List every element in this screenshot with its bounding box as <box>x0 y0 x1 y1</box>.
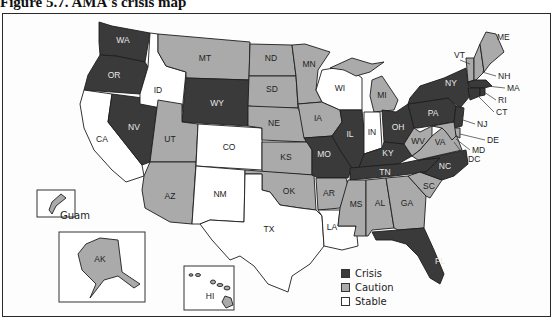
guam-label: Guam <box>60 210 90 221</box>
state-label-ms: MS <box>350 199 363 209</box>
state-label-ks: KS <box>280 152 292 162</box>
state-label-ut: UT <box>164 134 175 144</box>
state-label-in: IN <box>368 127 377 137</box>
state-label-mt: MT <box>199 53 211 63</box>
state-label-nm: NM <box>213 189 226 199</box>
state-label-ar: AR <box>323 188 335 198</box>
state-label-wv: WV <box>411 136 425 146</box>
state-label-ny: NY <box>445 78 457 88</box>
state-label-la: LA <box>327 222 338 232</box>
caution-swatch <box>341 283 350 292</box>
state-label-nc: NC <box>439 161 451 171</box>
state-label-fl: FL <box>435 256 445 266</box>
state-label-pa: PA <box>428 108 439 118</box>
state-label-nj: NJ <box>477 119 487 129</box>
state-label-oh: OH <box>392 122 405 132</box>
state-label-va: VA <box>435 137 446 147</box>
state-label-me: ME <box>497 32 510 42</box>
state-nj <box>454 106 464 128</box>
state-label-ri: RI <box>498 95 507 105</box>
state-label-wa: WA <box>116 35 130 45</box>
state-label-wy: WY <box>210 98 224 108</box>
state-label-ne: NE <box>268 118 280 128</box>
state-label-de: DE <box>487 135 499 145</box>
state-label-ca: CA <box>96 134 108 144</box>
state-label-ga: GA <box>401 198 414 208</box>
state-label-tx: TX <box>264 224 275 234</box>
state-label-tn: TN <box>379 167 390 177</box>
state-ma <box>468 80 492 88</box>
state-label-nv: NV <box>128 122 140 132</box>
state-label-nh: NH <box>498 71 510 81</box>
legend-label: Crisis <box>355 268 382 279</box>
state-label-ky: KY <box>382 148 394 158</box>
state-label-il: IL <box>346 129 353 139</box>
legend: Crisis Caution Stable <box>341 266 394 308</box>
state-label-id: ID <box>154 85 163 95</box>
state-label-co: CO <box>223 142 236 152</box>
state-label-sc: SC <box>423 181 435 191</box>
state-label-mn: MN <box>302 59 315 69</box>
state-label-ia: IA <box>314 113 322 123</box>
state-label-hi: HI <box>206 291 215 301</box>
state-label-al: AL <box>375 198 386 208</box>
state-label-az: AZ <box>165 191 176 201</box>
state-label-mo: MO <box>317 149 331 159</box>
state-ct <box>468 88 480 100</box>
state-label-nd: ND <box>265 53 277 63</box>
state-label-wi: WI <box>335 83 345 93</box>
us-crisis-map: WAORCANVIDMTWYUTAZCONMNDSDNEKSOKTXMNIAMO… <box>0 0 558 321</box>
state-label-or: OR <box>108 70 121 80</box>
stable-swatch <box>341 297 350 306</box>
legend-item-crisis: Crisis <box>341 266 394 280</box>
state-label-ak: AK <box>94 254 106 264</box>
legend-label: Caution <box>355 282 394 293</box>
state-label-mi: MI <box>377 90 386 100</box>
crisis-swatch <box>341 269 350 278</box>
legend-item-stable: Stable <box>341 294 394 308</box>
state-label-vt: VT <box>454 50 465 60</box>
legend-item-caution: Caution <box>341 280 394 294</box>
state-label-sd: SD <box>266 84 278 94</box>
legend-label: Stable <box>355 296 387 307</box>
state-label-dc: DC <box>468 154 480 164</box>
state-label-ct: CT <box>496 107 507 117</box>
state-label-ma: MA <box>507 83 520 93</box>
state-label-ok: OK <box>283 186 296 196</box>
